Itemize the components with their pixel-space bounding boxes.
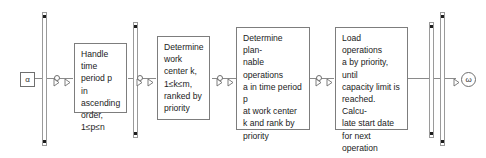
end-node[interactable]: ω — [461, 72, 476, 87]
sync-bar-4[interactable] — [440, 12, 445, 146]
process-step-2[interactable]: Determine work center k, 1≤k≤m, ranked b… — [157, 36, 210, 120]
connector-4[interactable] — [315, 72, 326, 84]
start-node[interactable]: α — [20, 72, 35, 87]
process-step-4[interactable]: Load operations a by priority, until cap… — [335, 27, 408, 130]
process-step-1[interactable]: Handle time period p in ascending order,… — [74, 43, 127, 113]
connector-1[interactable] — [53, 72, 64, 84]
sync-bar-1[interactable] — [42, 12, 47, 146]
sync-dot-bottom — [134, 132, 137, 135]
sync-dot-top — [134, 25, 137, 28]
sync-bar-3[interactable] — [429, 22, 434, 138]
sync-dot-top — [430, 25, 433, 28]
connector-2[interactable] — [136, 72, 147, 84]
process-step-3[interactable]: Determine plan- nable operations a in ti… — [236, 27, 310, 130]
sync-dot-bottom — [441, 140, 444, 143]
sync-dot-bottom — [430, 132, 433, 135]
sync-dot-top — [43, 15, 46, 18]
sync-dot-bottom — [43, 140, 46, 143]
sync-dot-top — [441, 15, 444, 18]
connector-3[interactable] — [216, 72, 227, 84]
diagram-canvas: α Handle time period p in ascending orde… — [0, 0, 486, 158]
